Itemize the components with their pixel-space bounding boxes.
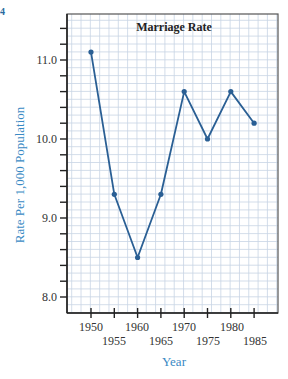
data-point (135, 255, 140, 260)
plot-frame (67, 14, 278, 313)
data-point (228, 89, 233, 94)
y-tick-label: 8.0 (42, 290, 57, 305)
x-tick-label: 1970 (172, 320, 196, 335)
data-point (252, 121, 257, 126)
y-axis-label: Rate Per 1,000 Population (12, 107, 28, 244)
data-point (88, 50, 93, 55)
y-tick-label: 11.0 (36, 53, 57, 68)
x-axis-label: Year (162, 354, 186, 370)
y-tick-label: 10.0 (36, 132, 57, 147)
x-tick-label: 1965 (149, 334, 173, 349)
x-tick-label: 1985 (243, 334, 267, 349)
chart-title: Marriage Rate (136, 20, 212, 35)
x-tick-label: 1960 (125, 320, 149, 335)
data-point (112, 192, 117, 197)
data-point (205, 136, 210, 141)
x-tick-label: 1955 (102, 334, 126, 349)
x-tick-label: 1975 (196, 334, 220, 349)
y-tick-label: 9.0 (42, 211, 57, 226)
x-tick-label: 1950 (79, 320, 103, 335)
data-point (158, 192, 163, 197)
x-tick-label: 1980 (220, 320, 244, 335)
data-point (182, 89, 187, 94)
